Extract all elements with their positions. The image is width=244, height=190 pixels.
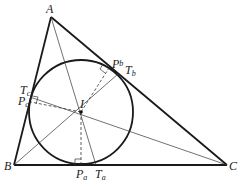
label-a: A	[45, 2, 54, 16]
label-pb: Pb	[111, 57, 123, 71]
label-b: B	[4, 159, 12, 173]
label-tb: Tb	[125, 63, 136, 78]
side-ac	[51, 17, 227, 165]
line-c-tc	[30, 97, 227, 165]
label-ta: Ta	[95, 167, 106, 182]
label-c: C	[229, 159, 238, 173]
perp-i-pb	[81, 68, 109, 112]
perp-i-pc	[31, 102, 81, 112]
geometry-diagram: A B C I Pa Ta Pb Tb Tc Pc	[0, 0, 244, 190]
line-a-ta	[51, 17, 96, 165]
label-pa: Pa	[75, 167, 87, 182]
